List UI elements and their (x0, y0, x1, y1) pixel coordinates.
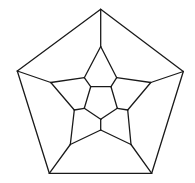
graph-edge-s1-m1 (117, 78, 151, 83)
graph-edge-i4-i0 (84, 87, 90, 109)
graph-edge-s2-m3 (101, 130, 131, 145)
graph-edge-s3-m3 (70, 130, 100, 145)
graph-edge-s4-m4 (51, 83, 75, 111)
dodecahedron-graph-diagram (0, 0, 195, 183)
graph-edge-s4-m0 (51, 78, 85, 83)
graph-edge-m4-i4 (74, 108, 84, 110)
graph-edge-s3-m4 (70, 110, 74, 145)
graph-edge-s0-m0 (84, 47, 100, 78)
graph-edge-s1-m2 (128, 83, 151, 111)
graph-edge-m0-i0 (84, 78, 90, 87)
graph-edge-m2-i2 (117, 108, 127, 110)
graph-edge-m1-i1 (111, 78, 117, 87)
graph-edge-o1-s1 (151, 72, 184, 83)
graph-edge-o0-o1 (101, 9, 184, 71)
graph-edges (17, 9, 183, 173)
graph-edge-i3-i4 (84, 108, 100, 119)
graph-edge-o4-s4 (17, 71, 51, 83)
graph-edge-i1-i2 (111, 87, 117, 109)
graph-edge-i2-i3 (101, 108, 118, 119)
graph-edge-o3-s3 (49, 145, 70, 174)
graph-edge-o4-o0 (17, 9, 100, 71)
graph-edge-o1-o2 (152, 72, 184, 174)
graph-edge-o2-s2 (131, 145, 152, 174)
graph-edge-o3-o4 (17, 71, 49, 173)
graph-edge-s0-m1 (101, 47, 117, 78)
graph-edge-s2-m2 (128, 110, 131, 145)
